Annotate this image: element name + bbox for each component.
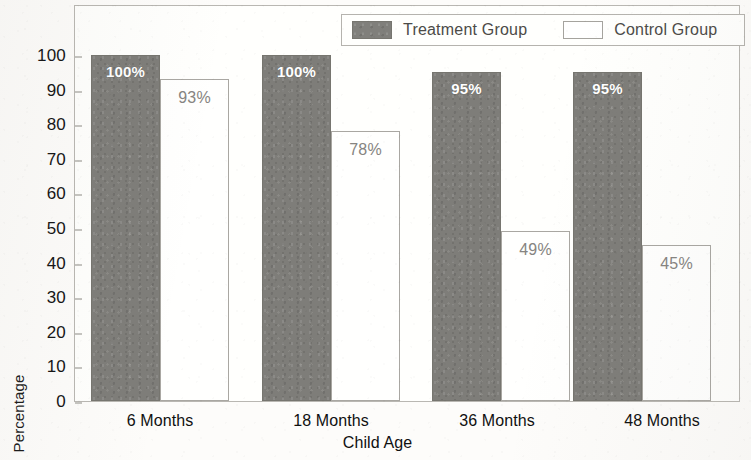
y-axis-tick-label: 60 [22, 184, 66, 204]
y-axis-tick-mark [75, 403, 82, 404]
x-axis-title: Child Age [0, 434, 751, 452]
bar-value-label: 95% [433, 80, 500, 97]
x-axis-group-label: 6 Months [127, 412, 194, 430]
y-axis-tick-label: 90 [22, 81, 66, 101]
y-axis-tick-mark [75, 126, 82, 127]
plot-area: 100%93%100%78%95%49%95%45% Treatment Gro… [74, 5, 740, 402]
bar-value-label: 93% [161, 89, 228, 107]
y-axis-tick-label: 100 [22, 46, 66, 66]
y-axis-tick-mark [75, 368, 82, 369]
bar-treatment-6-months: 100% [91, 55, 160, 401]
legend-swatch-treatment-icon [352, 21, 392, 39]
bar-value-label: 49% [502, 241, 569, 259]
bar-control-36-months: 49% [501, 231, 570, 401]
y-axis-tick-label: 40 [22, 254, 66, 274]
y-axis-tick-mark [75, 264, 82, 265]
bar-value-label: 45% [643, 255, 710, 273]
bar-value-label: 100% [263, 63, 330, 80]
bar-control-6-months: 93% [160, 79, 229, 401]
chart-legend: Treatment Group Control Group [341, 14, 745, 46]
x-axis-group-label: 36 Months [459, 412, 535, 430]
bar-value-label: 78% [332, 141, 399, 159]
y-axis-tick-mark [75, 91, 82, 92]
bar-value-label: 100% [92, 63, 159, 80]
x-axis-group-label: 18 Months [293, 412, 369, 430]
bar-treatment-18-months: 100% [262, 55, 331, 401]
bar-control-48-months: 45% [642, 245, 711, 401]
y-axis-tick-label: 50 [22, 219, 66, 239]
legend-label-treatment-group: Treatment Group [403, 21, 527, 39]
legend-entry-control-group: Control Group [563, 21, 717, 39]
bar-treatment-48-months: 95% [573, 72, 642, 401]
y-axis-tick-label: 70 [22, 150, 66, 170]
bar-value-label: 95% [574, 80, 641, 97]
x-axis-group-label: 48 Months [624, 412, 700, 430]
y-axis-tick-mark [75, 333, 82, 334]
y-axis-tick-label: 10 [22, 357, 66, 377]
bar-control-18-months: 78% [331, 131, 400, 401]
y-axis-tick-mark [75, 299, 82, 300]
y-axis-tick-label: 80 [22, 115, 66, 135]
bar-chart: 100%93%100%78%95%49%95%45% Treatment Gro… [0, 0, 751, 460]
legend-entry-treatment-group: Treatment Group [352, 21, 527, 39]
legend-label-control-group: Control Group [614, 21, 717, 39]
y-axis-tick-label: 30 [22, 288, 66, 308]
x-axis-title-text: Child Age [343, 434, 412, 451]
y-axis-tick-mark [75, 57, 82, 58]
y-axis-tick-label: 0 [22, 392, 66, 412]
bar-treatment-36-months: 95% [432, 72, 501, 401]
y-axis-tick-label: 20 [22, 323, 66, 343]
legend-swatch-control-icon [563, 21, 603, 39]
y-axis-tick-mark [75, 160, 82, 161]
y-axis-tick-mark [75, 230, 82, 231]
y-axis-tick-mark [75, 195, 82, 196]
